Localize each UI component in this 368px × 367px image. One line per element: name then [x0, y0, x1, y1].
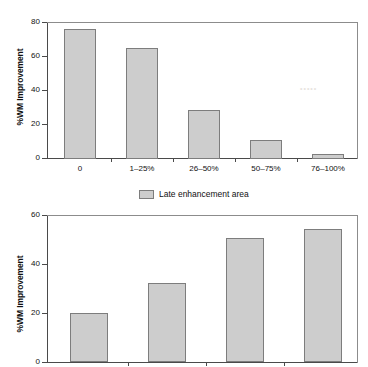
bar-top-0 [64, 29, 96, 159]
y-tick-label-top-60: 60 [14, 51, 40, 60]
bar-bottom-3 [226, 238, 264, 362]
legend-label-late-enhancement: Late enhancement area [159, 189, 249, 199]
x-tickmark-bottom-3 [284, 362, 285, 366]
x-tick-label-top-76-100: 76–100% [302, 164, 354, 173]
plot-area-top: %WM Improvement 80 60 40 20 0 [0, 0, 368, 180]
x-tickmark-bottom-2 [206, 362, 207, 366]
y-tick-label-bottom-0: 0 [14, 357, 40, 366]
frame-right-line-top [357, 22, 358, 159]
figure-bar-charts: %WM Improvement 80 60 40 20 0 [0, 0, 368, 367]
scan-artifact-smudge: ••••• [300, 85, 317, 92]
chart-legend: Late enhancement area [139, 189, 249, 199]
x-tickmark-top-1 [111, 158, 112, 162]
frame-top-line-bottom [47, 215, 358, 216]
y-axis-line-top [47, 22, 48, 159]
x-tickmark-top-3 [235, 158, 236, 162]
frame-top-line-top [47, 22, 358, 23]
bar-top-76-100 [312, 154, 344, 159]
x-tickmark-top-4 [297, 158, 298, 162]
x-tick-label-top-26-50: 26–50% [180, 164, 228, 173]
y-tick-label-bottom-60: 60 [14, 210, 40, 219]
y-tick-label-bottom-40: 40 [14, 259, 40, 268]
x-tick-label-top-1-25: 1–25% [118, 164, 166, 173]
y-tick-label-top-20: 20 [14, 119, 40, 128]
y-tick-label-top-80: 80 [14, 17, 40, 26]
plot-area-bottom: %WM Improvement 60 40 20 0 [0, 205, 368, 367]
y-tick-label-bottom-20: 20 [14, 308, 40, 317]
bar-bottom-1 [70, 313, 108, 362]
y-tick-label-top-40: 40 [14, 85, 40, 94]
y-tick-label-top-0: 0 [14, 153, 40, 162]
x-tickmark-bottom-1 [128, 362, 129, 366]
bar-top-1-25 [126, 48, 158, 159]
x-tick-label-top-0: 0 [56, 164, 104, 173]
x-tick-label-top-50-75: 50–75% [242, 164, 290, 173]
chart-panel-top: %WM Improvement 80 60 40 20 0 [0, 0, 368, 180]
bar-top-50-75 [250, 140, 282, 159]
y-axis-line-bottom [47, 215, 48, 363]
x-axis-line-bottom [47, 362, 358, 363]
bar-bottom-2 [148, 283, 186, 362]
bar-bottom-4 [304, 229, 342, 362]
frame-right-line-bottom [357, 215, 358, 363]
legend-swatch-icon [139, 190, 154, 199]
x-tickmark-top-2 [173, 158, 174, 162]
bar-top-26-50 [188, 110, 220, 159]
chart-panel-bottom: %WM Improvement 60 40 20 0 [0, 205, 368, 367]
